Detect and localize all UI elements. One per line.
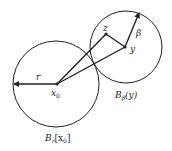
label-beta: β xyxy=(135,28,141,38)
segment-z-y xyxy=(106,34,125,47)
label-z: z xyxy=(102,23,108,33)
point-x0 xyxy=(55,82,58,85)
label-big-ball: Br[x0] xyxy=(44,133,70,144)
point-y xyxy=(123,45,126,48)
label-x0: x0 xyxy=(51,88,60,99)
ball-diagram: r x0 z y β Bβ(y) Br[x0] xyxy=(0,0,172,151)
label-small-ball: Bβ(y) xyxy=(114,90,138,102)
label-y: y xyxy=(129,44,136,54)
segment-x0-y xyxy=(57,47,125,84)
label-r: r xyxy=(36,72,41,82)
